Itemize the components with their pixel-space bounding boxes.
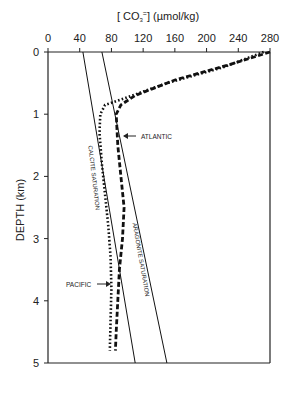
series (83, 52, 270, 363)
y-tick-label: 4 (33, 295, 39, 307)
y-axis-label: DEPTH (km) (14, 179, 26, 241)
x-axis-ticks: 04080120160200240280 (45, 32, 279, 52)
y-tick-label: 1 (33, 108, 39, 120)
x-tick-label: 80 (105, 32, 117, 44)
pacific-annotation: PACIFIC (66, 281, 111, 288)
series-atlantic (115, 52, 270, 351)
x-tick-label: 0 (45, 32, 51, 44)
x-tick-label: 120 (134, 32, 152, 44)
svg-text:ATLANTIC: ATLANTIC (141, 133, 172, 140)
series-calcite-saturation (83, 52, 135, 363)
atlantic-annotation: ATLANTIC (123, 133, 172, 140)
x-tick-label: 200 (197, 32, 215, 44)
y-tick-label: 5 (33, 357, 39, 369)
x-axis-label: [ CO3=] (µmol/kg) (117, 10, 199, 23)
calcite-label: CALCITE SATURATION (87, 145, 100, 210)
axes (48, 52, 270, 363)
chart: 04080120160200240280 012345 [ CO3=] (µmo… (0, 0, 290, 396)
y-tick-label: 0 (33, 46, 39, 58)
x-tick-label: 160 (166, 32, 184, 44)
svg-text:PACIFIC: PACIFIC (66, 281, 91, 288)
x-tick-label: 240 (229, 32, 247, 44)
aragonite-label: ARAGONITE SATURATION (132, 222, 151, 297)
y-axis-ticks: 012345 (33, 46, 48, 369)
x-tick-label: 280 (261, 32, 279, 44)
x-tick-label: 40 (74, 32, 86, 44)
y-tick-label: 2 (33, 170, 39, 182)
y-tick-label: 3 (33, 233, 39, 245)
